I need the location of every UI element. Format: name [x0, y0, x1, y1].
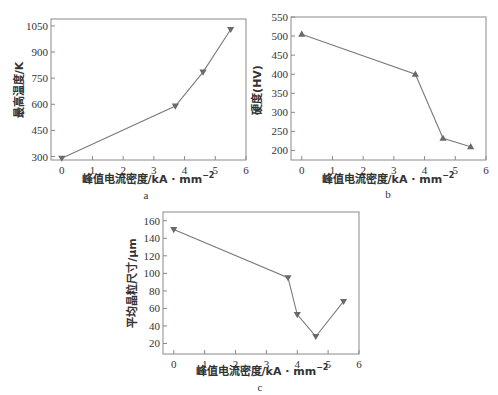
panel-b-label: b	[385, 188, 391, 200]
y-tick-label: 300	[272, 106, 289, 118]
triangle-down-marker-icon	[58, 156, 65, 162]
figure-canvas: 01234563004506007509001050 0123456200250…	[0, 0, 498, 395]
y-tick-label: 160	[144, 215, 161, 227]
panel-c-xlabel: 峰值电流密度/kA · mm−2	[196, 363, 329, 378]
triangle-down-marker-icon	[227, 27, 234, 33]
x-tick-label: 0	[59, 164, 65, 176]
triangle-down-marker-icon	[312, 334, 319, 340]
y-tick-label: 400	[272, 68, 289, 80]
triangle-down-marker-icon	[284, 275, 291, 281]
y-tick-label: 550	[272, 11, 289, 23]
y-tick-label: 1050	[26, 20, 49, 32]
y-tick-label: 120	[144, 250, 161, 262]
y-tick-label: 500	[272, 30, 289, 42]
x-tick-label: 6	[356, 358, 362, 370]
chart-panel-a: 01234563004506007509001050	[26, 19, 249, 176]
y-tick-label: 100	[144, 267, 161, 279]
data-series-line	[174, 230, 344, 337]
y-tick-label: 350	[272, 87, 289, 99]
chart-panel-c: 012345620406080100120140160	[144, 212, 363, 370]
plot-frame	[163, 212, 359, 354]
x-tick-label: 6	[483, 164, 489, 176]
y-tick-label: 140	[144, 232, 161, 244]
triangle-up-marker-icon	[298, 31, 305, 37]
y-tick-label: 40	[149, 320, 161, 332]
chart-panel-b: 0123456200250300350400450500550	[272, 11, 490, 176]
y-tick-label: 20	[149, 337, 161, 349]
x-tick-label: 0	[171, 358, 177, 370]
panel-c-label: c	[258, 381, 263, 393]
y-tick-label: 200	[272, 144, 289, 156]
panel-b-ylabel: 硬度(HV)	[250, 65, 264, 115]
panel-a-xlabel: 峰值电流密度/kA · mm−2	[82, 171, 215, 186]
panel-a-ylabel: 最高温度/K	[12, 61, 26, 118]
y-tick-label: 300	[32, 151, 49, 163]
triangle-up-marker-icon	[439, 135, 446, 141]
panel-b-xlabel: 峰值电流密度/kA · mm−2	[322, 171, 455, 186]
data-series-line	[62, 29, 231, 158]
y-tick-label: 750	[32, 72, 49, 84]
x-tick-label: 6	[243, 164, 249, 176]
y-tick-label: 250	[272, 125, 289, 137]
y-tick-label: 450	[32, 124, 49, 136]
plot-frame	[291, 17, 486, 160]
y-tick-label: 80	[149, 285, 161, 297]
y-tick-label: 600	[32, 98, 49, 110]
x-tick-label: 0	[299, 164, 305, 176]
plot-frame	[51, 19, 246, 160]
data-series-line	[302, 34, 471, 146]
y-tick-label: 450	[272, 49, 289, 61]
y-tick-label: 900	[32, 46, 49, 58]
triangle-down-marker-icon	[172, 104, 179, 110]
panel-a-label: a	[144, 189, 149, 201]
y-tick-label: 60	[149, 302, 161, 314]
panel-c-ylabel: 平均晶粒尺寸/μm	[125, 238, 139, 328]
